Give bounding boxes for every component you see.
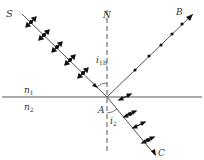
medium-bottom-label: n2 (24, 102, 34, 113)
brewster-diagram: S N B C A n1 n2 i1B i2 (0, 0, 204, 160)
refracted-angle-arc (107, 109, 117, 113)
refracted-label: C (158, 148, 165, 158)
refracted-angle-label: i2 (110, 116, 117, 127)
incident-angle-arc (97, 83, 107, 87)
normal-label: N (102, 10, 112, 20)
source-label: S (6, 8, 13, 19)
incident-angle-label: i1B (96, 55, 108, 66)
refracted-arrowhead (151, 149, 156, 156)
incidence-point-label: A (97, 105, 105, 115)
medium-top-label: n1 (24, 85, 34, 96)
reflected-label: B (175, 7, 183, 17)
